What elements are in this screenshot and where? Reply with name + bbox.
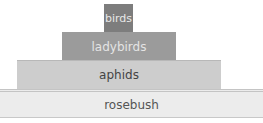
tier-rosebush: rosebush: [0, 89, 263, 118]
tier-birds: birds: [104, 4, 133, 32]
tier-aphids: aphids: [17, 60, 221, 89]
tier-ladybirds: ladybirds: [62, 32, 176, 61]
